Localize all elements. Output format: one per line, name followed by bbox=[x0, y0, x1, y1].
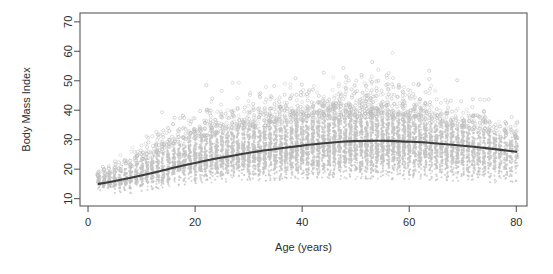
scatter-point bbox=[372, 144, 374, 146]
scatter-point bbox=[424, 173, 426, 175]
scatter-point bbox=[119, 184, 121, 186]
scatter-point bbox=[332, 176, 334, 178]
scatter-point bbox=[147, 164, 149, 166]
scatter-point bbox=[450, 153, 452, 155]
scatter-point bbox=[327, 140, 329, 142]
scatter-point bbox=[300, 133, 302, 135]
scatter-point bbox=[490, 155, 492, 157]
scatter-point bbox=[456, 129, 458, 131]
scatter-point bbox=[450, 138, 452, 140]
scatter-point bbox=[424, 151, 426, 153]
scatter-point bbox=[467, 137, 469, 139]
scatter-point bbox=[189, 152, 191, 154]
scatter-point bbox=[187, 154, 189, 156]
scatter-point bbox=[375, 165, 377, 167]
scatter-point bbox=[512, 148, 514, 150]
scatter-point bbox=[246, 131, 248, 133]
scatter-point bbox=[173, 172, 175, 174]
scatter-point bbox=[107, 187, 109, 189]
scatter-point bbox=[338, 143, 340, 145]
scatter-point bbox=[468, 132, 470, 134]
scatter-point bbox=[388, 128, 390, 130]
scatter-point bbox=[516, 153, 518, 155]
scatter-point bbox=[367, 127, 369, 129]
scatter-point bbox=[278, 178, 280, 180]
scatter-point bbox=[428, 87, 431, 90]
scatter-point bbox=[355, 128, 357, 130]
scatter-point bbox=[444, 174, 446, 176]
scatter-point bbox=[515, 147, 517, 149]
scatter-point bbox=[381, 127, 383, 129]
scatter-point bbox=[360, 124, 362, 126]
scatter-point bbox=[210, 100, 213, 103]
x-axis-ticks: 020406080 bbox=[85, 206, 522, 228]
scatter-point bbox=[236, 134, 238, 136]
scatter-point bbox=[484, 152, 486, 154]
scatter-point bbox=[385, 123, 387, 125]
scatter-point bbox=[332, 153, 334, 155]
scatter-point bbox=[425, 164, 427, 166]
scatter-point bbox=[275, 110, 278, 113]
scatter-point bbox=[500, 177, 502, 179]
scatter-point bbox=[205, 84, 208, 87]
scatter-point bbox=[281, 152, 283, 154]
scatter-point bbox=[377, 123, 379, 125]
scatter-point bbox=[506, 142, 508, 144]
scatter-point bbox=[504, 164, 506, 166]
scatter-point bbox=[501, 160, 503, 162]
scatter-point bbox=[455, 151, 457, 153]
scatter-point bbox=[307, 134, 309, 136]
scatter-point bbox=[462, 174, 464, 176]
scatter-point bbox=[209, 177, 211, 179]
scatter-point bbox=[329, 148, 331, 150]
scatter-point bbox=[371, 148, 373, 150]
scatter-point bbox=[376, 135, 378, 137]
scatter-point bbox=[430, 125, 432, 127]
scatter-point bbox=[456, 138, 458, 140]
scatter-point bbox=[238, 166, 240, 168]
scatter-point bbox=[180, 169, 182, 171]
scatter-point bbox=[227, 139, 229, 141]
scatter-point bbox=[260, 159, 262, 161]
scatter-point bbox=[446, 153, 448, 155]
scatter-point bbox=[503, 157, 505, 159]
scatter-point bbox=[412, 92, 415, 95]
scatter-point bbox=[451, 169, 453, 171]
scatter-point bbox=[386, 132, 388, 134]
scatter-point bbox=[332, 172, 334, 174]
scatter-point bbox=[468, 158, 470, 160]
scatter-point bbox=[434, 145, 436, 147]
scatter-point bbox=[353, 120, 355, 122]
scatter-point bbox=[429, 128, 431, 130]
scatter-point bbox=[339, 161, 341, 163]
scatter-point bbox=[241, 179, 243, 181]
scatter-point bbox=[316, 153, 318, 155]
x-tick-label: 20 bbox=[189, 216, 201, 228]
scatter-point bbox=[306, 171, 308, 173]
scatter-point bbox=[364, 175, 366, 177]
scatter-point bbox=[237, 114, 240, 117]
scatter-point bbox=[265, 98, 268, 101]
scatter-point bbox=[356, 118, 358, 120]
scatter-point bbox=[165, 131, 168, 134]
scatter-point bbox=[397, 144, 399, 146]
scatter-point bbox=[285, 143, 287, 145]
scatter-point bbox=[160, 181, 162, 183]
scatter-point bbox=[265, 139, 267, 141]
scatter-point bbox=[362, 151, 364, 153]
scatter-point bbox=[321, 128, 323, 130]
scatter-point bbox=[178, 152, 180, 154]
scatter-point bbox=[478, 164, 480, 166]
scatter-point bbox=[392, 168, 394, 170]
scatter-point bbox=[307, 141, 309, 143]
scatter-point bbox=[135, 164, 137, 166]
scatter-point bbox=[321, 146, 323, 148]
scatter-point bbox=[310, 149, 312, 151]
scatter-point bbox=[509, 161, 511, 163]
scatter-point bbox=[124, 184, 126, 186]
scatter-point bbox=[396, 125, 398, 127]
scatter-point bbox=[445, 134, 447, 136]
scatter-point bbox=[457, 134, 459, 136]
scatter-point bbox=[231, 81, 234, 84]
scatter-point bbox=[114, 184, 116, 186]
